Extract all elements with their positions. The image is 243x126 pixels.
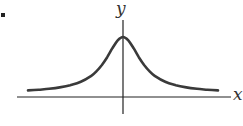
bell-curve-plot xyxy=(0,0,243,126)
y-axis-label: y xyxy=(116,0,126,17)
x-axis-label: x xyxy=(233,86,243,103)
